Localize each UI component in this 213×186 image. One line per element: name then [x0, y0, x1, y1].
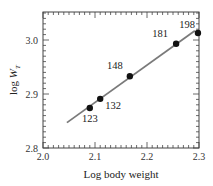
- y-tick-label: 2.9: [26, 89, 39, 100]
- data-point: [97, 96, 103, 102]
- y-tick-label: 2.8: [26, 143, 39, 154]
- y-axis-title: log WT: [7, 64, 22, 95]
- axis-ticks: [43, 12, 199, 148]
- data-point-label: 181: [152, 28, 168, 39]
- x-tick-label: 2.3: [193, 151, 206, 162]
- data-point: [87, 105, 93, 111]
- plot-frame: [43, 12, 199, 148]
- chart: 123132148181198 2.02.12.22.3 2.82.93.0 L…: [0, 0, 213, 186]
- x-tick-label: 2.1: [89, 151, 102, 162]
- x-tick-label: 2.2: [141, 151, 154, 162]
- x-axis-title: Log body weight: [83, 168, 158, 180]
- data-point: [195, 30, 201, 36]
- data-point-label: 132: [105, 100, 121, 111]
- data-points: 123132148181198: [82, 19, 201, 124]
- data-point: [173, 41, 179, 47]
- data-point-label: 123: [82, 113, 98, 124]
- x-tick-label: 2.0: [37, 151, 50, 162]
- data-point-label: 198: [179, 19, 195, 30]
- data-point: [127, 73, 133, 79]
- x-tick-labels: 2.02.12.22.3: [37, 151, 206, 162]
- data-point-label: 148: [107, 60, 123, 71]
- y-tick-labels: 2.82.93.0: [26, 35, 39, 154]
- y-tick-label: 3.0: [26, 35, 39, 46]
